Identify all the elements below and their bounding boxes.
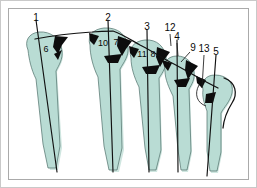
axis-label-9: 9 (190, 42, 196, 53)
bone-5-vertex-dot (208, 94, 211, 97)
anatomical-diagram-svg: 1 2 3 12 4 9 13 5 6 10 7 11 8 (0, 0, 257, 188)
axis-label-5: 5 (213, 46, 219, 57)
axis-label-3: 3 (144, 21, 150, 32)
inner-label-8: 8 (150, 49, 155, 59)
inner-label-11: 11 (137, 49, 146, 59)
figure-root: 1 2 3 12 4 9 13 5 6 10 7 11 8 (0, 0, 257, 188)
axis-label-4: 4 (174, 31, 180, 42)
inner-label-10: 10 (98, 38, 108, 48)
axis-label-1: 1 (33, 12, 39, 23)
inner-label-7: 7 (113, 37, 118, 47)
axis-label-2: 2 (105, 12, 111, 23)
inner-label-6: 6 (43, 44, 48, 54)
axis-label-13: 13 (198, 43, 210, 54)
